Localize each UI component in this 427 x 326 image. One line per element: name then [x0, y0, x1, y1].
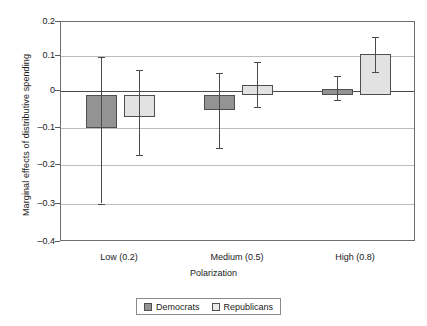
- error-bar-cap: [334, 100, 341, 101]
- y-tick-label: –0.3: [15, 198, 55, 208]
- y-tick-label: –0.4: [15, 236, 55, 246]
- y-tick-label: 0.2: [15, 16, 55, 26]
- error-bar-line: [219, 73, 220, 148]
- error-bar-cap: [372, 72, 379, 73]
- chart-legend: Democrats Republicans: [136, 298, 281, 315]
- y-tick-label: –0.2: [15, 159, 55, 169]
- legend-swatch-icon: [212, 303, 220, 311]
- legend-item-democrats[interactable]: Democrats: [144, 302, 200, 312]
- chart-figure: Marginal effects of distributive spendin…: [0, 0, 427, 326]
- error-bar-cap: [136, 155, 143, 156]
- error-bar-line: [257, 62, 258, 107]
- error-bar-line: [337, 76, 338, 100]
- error-bar-cap: [98, 204, 105, 205]
- gridline: [61, 204, 414, 205]
- x-tick-label: High (0.8): [335, 252, 375, 262]
- error-bar-cap: [136, 70, 143, 71]
- legend-item-republicans[interactable]: Republicans: [212, 302, 274, 312]
- error-bar-line: [139, 70, 140, 155]
- error-bar-cap: [98, 57, 105, 58]
- x-tick-label: Medium (0.5): [210, 252, 263, 262]
- error-bar-cap: [216, 148, 223, 149]
- y-tick-label: 0: [15, 85, 55, 95]
- x-axis-title: Polarization: [0, 268, 427, 278]
- error-bar-line: [101, 57, 102, 204]
- y-tick-label: 0.1: [15, 50, 55, 60]
- error-bar-cap: [216, 73, 223, 74]
- error-bar-line: [375, 37, 376, 72]
- legend-label: Republicans: [224, 302, 274, 312]
- error-bar-cap: [372, 37, 379, 38]
- x-tick-label: Low (0.2): [100, 252, 138, 262]
- error-bar-cap: [254, 107, 261, 108]
- error-bar-cap: [254, 62, 261, 63]
- legend-label: Democrats: [156, 302, 200, 312]
- y-tick-label: –0.1: [15, 122, 55, 132]
- plot-area: [60, 21, 415, 241]
- gridline: [61, 165, 414, 166]
- legend-swatch-icon: [144, 303, 152, 311]
- error-bar-cap: [334, 76, 341, 77]
- y-tick-mark: [55, 241, 60, 242]
